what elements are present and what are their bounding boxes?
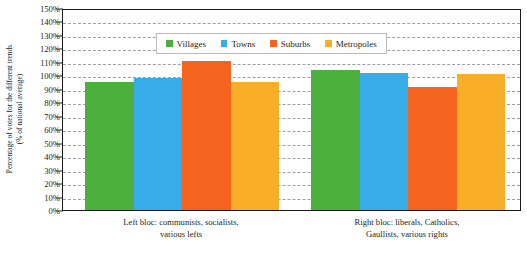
legend-entry-suburbs[interactable]: Suburbs xyxy=(270,39,310,49)
legend-entry-villages[interactable]: Villages xyxy=(166,39,206,49)
legend-label: Suburbs xyxy=(281,39,311,49)
x-axis-group-label-line: Gaullists, various rights xyxy=(297,229,517,241)
bar xyxy=(134,78,183,210)
legend-label: Metropoles xyxy=(336,39,377,49)
y-axis-title-line-2: (% of national average) xyxy=(15,45,25,173)
chart-legend: VillagesTownsSuburbsMetropoles xyxy=(156,33,387,54)
legend-label: Villages xyxy=(177,39,206,49)
bar xyxy=(311,70,360,210)
bar xyxy=(360,73,409,210)
legend-swatch-icon xyxy=(166,40,173,47)
y-axis-title-line-1: Percentage of votes for the different tr… xyxy=(5,45,15,173)
legend-entry-towns[interactable]: Towns xyxy=(221,39,255,49)
legend-entry-metropoles[interactable]: Metropoles xyxy=(325,39,377,49)
legend-swatch-icon xyxy=(221,40,228,47)
y-axis-title: Percentage of votes for the different tr… xyxy=(0,0,30,218)
bar-chart-figure: Percentage of votes for the different tr… xyxy=(0,0,527,257)
bar xyxy=(182,61,231,210)
bar xyxy=(231,82,280,210)
x-axis-group-label: Left bloc: communists, socialists,variou… xyxy=(71,217,291,240)
legend-label: Towns xyxy=(231,39,255,49)
legend-swatch-icon xyxy=(325,40,332,47)
x-axis-group-label-line: various lefts xyxy=(71,229,291,241)
bar xyxy=(85,82,134,210)
legend-swatch-icon xyxy=(270,40,277,47)
bar xyxy=(408,87,457,210)
bar xyxy=(457,74,506,210)
x-axis-group-label-line: Right bloc: liberals, Catholics, xyxy=(297,217,517,229)
x-axis-group-label-line: Left bloc: communists, socialists, xyxy=(71,217,291,229)
x-axis-group-label: Right bloc: liberals, Catholics,Gaullist… xyxy=(297,217,517,240)
